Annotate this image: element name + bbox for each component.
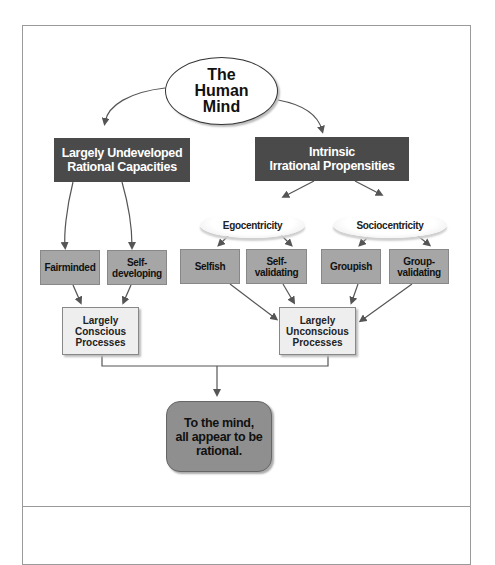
cloud-label: Egocentricity — [223, 220, 282, 231]
trait-self-developing: Self- developing — [107, 250, 167, 285]
cloud-egocentricity: Egocentricity — [200, 212, 305, 238]
trait-groupish: Groupish — [321, 249, 381, 284]
root-node-human-mind: The Human Mind — [165, 57, 278, 125]
trait-label: Selfish — [195, 261, 226, 272]
branch-irrational-propensities: Intrinsic Irrational Propensities — [255, 137, 409, 181]
trait-label: Groupish — [330, 261, 372, 272]
trait-label: Group- validating — [397, 256, 441, 278]
conclusion-label: To the mind, all appear to be rational. — [176, 416, 263, 458]
conclusion-node: To the mind, all appear to be rational. — [166, 401, 272, 472]
branch-rational-capacities: Largely Undeveloped Rational Capacities — [54, 138, 190, 182]
branch-label: Largely Undeveloped Rational Capacities — [62, 146, 183, 174]
trait-label: Fairminded — [45, 262, 96, 273]
trait-label: Self- developing — [112, 257, 162, 279]
process-conscious: Largely Conscious Processes — [62, 307, 139, 355]
process-unconscious: Largely Unconscious Processes — [279, 307, 356, 355]
trait-group-validating: Group- validating — [389, 249, 449, 284]
root-node-label: The Human Mind — [194, 67, 248, 115]
cloud-label: Sociocentricity — [356, 220, 423, 231]
trait-self-validating: Self- validating — [246, 249, 307, 284]
trait-label: Self- validating — [255, 256, 299, 278]
trait-fairminded: Fairminded — [40, 250, 100, 285]
trait-selfish: Selfish — [180, 249, 240, 284]
process-label: Largely Conscious Processes — [75, 315, 126, 348]
branch-label: Intrinsic Irrational Propensities — [269, 145, 394, 173]
cloud-sociocentricity: Sociocentricity — [333, 212, 447, 238]
process-label: Largely Unconscious Processes — [286, 315, 349, 348]
